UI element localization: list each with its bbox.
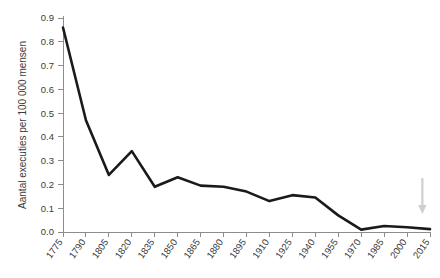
annotation-arrow [418,178,426,214]
y-axis-tick-label: 0.9 [41,12,54,23]
y-axis-tick-label: 0.3 [41,155,54,166]
data-series [63,28,430,230]
x-axis-tick-label: 1910 [250,237,271,261]
y-axis-tick-label: 0.0 [41,226,54,237]
y-axis-title-label: Aantal executies per 100 000 mensen [17,41,28,209]
x-axis-tick-label: 1775 [44,237,65,261]
x-axis-tick-label: 1790 [66,237,87,261]
x-axis-tick-label: 1895 [227,237,248,261]
y-axis-tick-label: 0.8 [41,36,54,47]
x-axis: 1775179018051820183518501865188018951910… [44,232,432,260]
x-axis-tick-label: 1925 [273,237,294,261]
x-axis-tick-label: 1955 [319,237,340,261]
y-axis-tick-label: 0.2 [41,179,54,190]
y-axis: 0.00.10.20.30.40.50.60.70.80.9 [41,12,63,237]
x-axis-tick-label: 1835 [135,237,156,261]
data-line-0 [63,28,430,230]
x-axis-tick-label: 1880 [204,237,225,261]
x-axis-tick-label: 1850 [158,237,179,261]
x-axis-tick-label: 2000 [388,237,409,261]
line-chart: 0.00.10.20.30.40.50.60.70.80.9 177517901… [0,0,440,278]
y-axis-tick-label: 0.1 [41,203,54,214]
x-axis-tick-label: 1970 [342,237,363,261]
y-axis-tick-label: 0.4 [41,131,54,142]
y-axis-tick-label: 0.7 [41,60,54,71]
x-axis-tick-label: 2015 [411,237,432,261]
y-axis-tick-label: 0.5 [41,108,54,119]
chart-container: 0.00.10.20.30.40.50.60.70.80.9 177517901… [0,0,440,278]
x-axis-tick-label: 1865 [181,237,202,261]
x-axis-tick-label: 1985 [365,237,386,261]
y-axis-tick-label: 0.6 [41,84,54,95]
y-axis-title: Aantal executies per 100 000 mensen [17,41,28,209]
x-axis-tick-label: 1805 [89,237,110,261]
x-axis-tick-label: 1820 [112,237,133,261]
annotation-arrow-head [418,205,426,214]
x-axis-tick-label: 1940 [296,237,317,261]
